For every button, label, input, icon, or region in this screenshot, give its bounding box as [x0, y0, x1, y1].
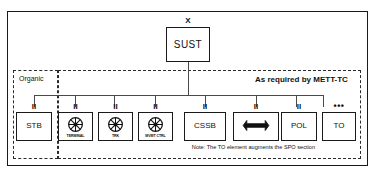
connector-sust-stem [188, 62, 189, 95]
node-terminal[interactable]: II TERMINAL [58, 112, 93, 141]
node-maintenance[interactable]: II [233, 112, 279, 141]
node-trk-sublabel: TRK [99, 135, 132, 139]
wheel-icon [99, 115, 132, 134]
region-organic-label: Organic [19, 75, 44, 82]
sust-echelon-marker: X [166, 17, 210, 25]
region-mett-tc-label: As required by METT-TC [255, 76, 348, 84]
connector-bus-bar [34, 95, 323, 96]
node-to-echelon: ••• [323, 102, 355, 111]
node-pol-label: POL [282, 122, 316, 130]
node-trk-echelon: II [99, 103, 132, 111]
node-stb-echelon: II [17, 103, 51, 111]
node-to[interactable]: ••• TO [322, 112, 356, 141]
wheel-icon [139, 115, 172, 134]
node-stb[interactable]: II STB [16, 112, 52, 141]
node-cssb[interactable]: II CSSB [184, 112, 226, 141]
node-mvmt-ctrl-sublabel: MVMT CTRL [139, 135, 172, 139]
node-cssb-echelon: II [185, 103, 225, 111]
node-mvmt-ctrl[interactable]: II MVMT CTRL [138, 112, 173, 141]
node-terminal-sublabel: TERMINAL [59, 135, 92, 139]
node-trk[interactable]: II TRK [98, 112, 133, 141]
wheel-icon [59, 115, 92, 134]
node-maintenance-echelon: II [234, 103, 278, 111]
diagram-note: Note: The TO element augments the SPO se… [192, 145, 315, 151]
diagram-canvas: Organic As required by METT-TC X SUST II… [0, 0, 377, 176]
wrench-icon [234, 118, 278, 133]
sust-box-label: SUST [174, 39, 202, 50]
node-mvmt-ctrl-echelon: II [139, 103, 172, 111]
node-cssb-label: CSSB [185, 122, 225, 130]
node-pol-echelon: II [282, 103, 316, 111]
node-to-label: TO [323, 122, 355, 130]
node-stb-label: STB [17, 122, 51, 130]
node-terminal-echelon: II [59, 103, 92, 111]
node-pol[interactable]: II POL [281, 112, 317, 141]
sust-box[interactable]: SUST [166, 27, 210, 62]
